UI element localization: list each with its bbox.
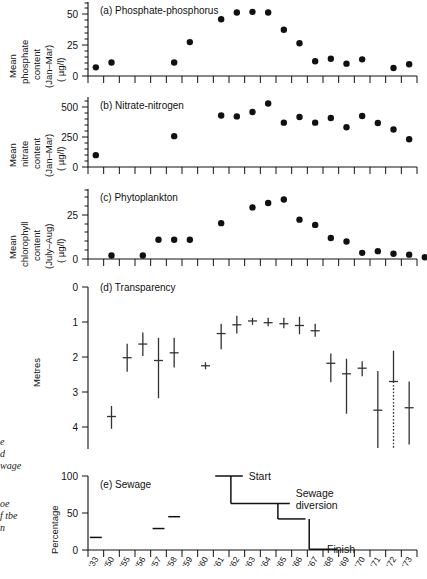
data-point bbox=[234, 113, 240, 119]
margin-note-4: f tbe bbox=[0, 510, 38, 523]
annotation-label: Sewage bbox=[296, 487, 334, 499]
panel-d-transparency: Metres (d) Transparency 0 1 2 3 4 bbox=[0, 277, 427, 457]
data-point bbox=[108, 59, 114, 65]
panel-b-ylabel-line-3: (Jan–Mar) bbox=[43, 134, 54, 177]
panel-e-sewage: Percentage (e) Sewage 0 50 100 StartSewa… bbox=[0, 466, 427, 576]
panel-d-errorbars bbox=[107, 316, 414, 448]
panel-c-ylabel-group: Mean chlorophyll content (July–Aug) ( µg… bbox=[7, 222, 66, 269]
panel-a-title: (a) Phosphate-phosphorus bbox=[100, 5, 218, 16]
data-point bbox=[328, 115, 334, 121]
panel-c-xticks bbox=[88, 259, 417, 266]
panel-a-ytick-0: 0 bbox=[72, 71, 78, 82]
panel-c-title: (c) Phytoplankton bbox=[100, 192, 178, 203]
errorbar bbox=[138, 333, 147, 356]
data-point bbox=[390, 126, 396, 132]
panel-a-phosphate: Mean phosphate content (Jan–Mar) ( µg/l)… bbox=[0, 0, 427, 95]
panel-a-xticks bbox=[88, 76, 417, 83]
errorbar bbox=[248, 318, 257, 325]
margin-note-2: wage bbox=[0, 460, 38, 473]
data-point bbox=[93, 64, 99, 70]
panel-c-yticks bbox=[82, 190, 88, 259]
data-point bbox=[281, 119, 287, 125]
data-point bbox=[218, 16, 224, 22]
margin-note-0: e bbox=[0, 436, 38, 449]
data-point bbox=[406, 136, 412, 142]
margin-note-3: oe bbox=[0, 498, 38, 511]
data-point bbox=[390, 251, 396, 257]
panel-a-ylabel-line-2: content bbox=[31, 48, 42, 80]
panel-c-ylabel-line-4: ( µg/l) bbox=[55, 239, 66, 263]
annotation-label: Start bbox=[249, 470, 271, 482]
errorbar bbox=[373, 371, 382, 448]
errorbar bbox=[405, 382, 414, 445]
panel-c-ylabel-line-0: Mean bbox=[7, 235, 18, 259]
data-point bbox=[390, 65, 396, 71]
data-point bbox=[187, 39, 193, 45]
panel-d-ytick-2: 2 bbox=[72, 352, 78, 363]
panel-b-ytick-0: 0 bbox=[72, 162, 78, 173]
panel-d-title: (d) Transparency bbox=[100, 282, 176, 293]
errorbar bbox=[232, 316, 241, 334]
data-point bbox=[312, 119, 318, 125]
data-point bbox=[375, 248, 381, 254]
data-point bbox=[296, 40, 302, 46]
errorbar bbox=[201, 362, 210, 369]
errorbar bbox=[358, 361, 367, 376]
panel-b-yticks bbox=[82, 101, 88, 167]
data-point bbox=[343, 60, 349, 66]
margin-note-1: d bbox=[0, 448, 38, 461]
errorbar bbox=[170, 338, 179, 368]
data-point bbox=[265, 200, 271, 206]
panel-b-ylabel-line-0: Mean bbox=[7, 143, 18, 167]
panel-d-ylabel: Metres bbox=[31, 358, 42, 387]
panel-a-ylabel-line-1: phosphate bbox=[19, 40, 30, 84]
errorbar bbox=[154, 338, 163, 399]
data-point bbox=[218, 112, 224, 118]
panel-a-yticks bbox=[82, 3, 88, 76]
panel-a-ylabel-line-4: ( µg/l) bbox=[55, 58, 66, 82]
panel-a-ylabel-group: Mean phosphate content (Jan–Mar) ( µg/l) bbox=[7, 40, 66, 88]
data-point bbox=[359, 56, 365, 62]
panel-e-title: (e) Sewage bbox=[100, 479, 152, 490]
data-point bbox=[249, 9, 255, 15]
errorbar bbox=[295, 317, 304, 335]
data-point bbox=[406, 61, 412, 67]
panel-d-ytick-1: 1 bbox=[72, 317, 78, 328]
data-point bbox=[312, 222, 318, 228]
panel-e-yticks bbox=[82, 476, 88, 550]
errorbar bbox=[342, 359, 351, 414]
panel-b-ylabel-line-2: content bbox=[31, 137, 42, 169]
panel-c-ylabel-line-2: content bbox=[31, 229, 42, 261]
errorbar bbox=[279, 318, 288, 329]
data-point bbox=[234, 9, 240, 15]
errorbar bbox=[107, 406, 116, 429]
data-point bbox=[249, 109, 255, 115]
panel-a-ylabel-line-0: Mean bbox=[7, 54, 18, 78]
data-point bbox=[265, 100, 271, 106]
panel-e-ytick-1: 50 bbox=[67, 508, 79, 519]
data-point bbox=[155, 237, 161, 243]
panel-a-ylabel-line-3: (Jan–Mar) bbox=[43, 45, 54, 88]
data-point bbox=[171, 133, 177, 139]
errorbar bbox=[326, 354, 335, 383]
errorbar bbox=[217, 324, 226, 350]
data-point bbox=[281, 27, 287, 33]
panel-b-title: (b) Nitrate-nitrogen bbox=[100, 100, 184, 111]
data-point bbox=[140, 252, 146, 258]
annotation-label: Finish bbox=[327, 543, 355, 555]
data-point bbox=[328, 56, 334, 62]
data-point bbox=[218, 220, 224, 226]
data-point bbox=[249, 204, 255, 210]
panel-c-ytick-1: 25 bbox=[67, 210, 79, 221]
data-point bbox=[171, 237, 177, 243]
data-point bbox=[343, 238, 349, 244]
data-point bbox=[296, 114, 302, 120]
data-point bbox=[312, 58, 318, 64]
panel-d-ytick-0: 0 bbox=[72, 282, 78, 293]
data-point bbox=[328, 235, 334, 241]
panel-b-ylabel-line-4: ( µg/l) bbox=[55, 147, 66, 171]
panel-a-ytick-1: 25 bbox=[67, 40, 79, 51]
data-point bbox=[187, 237, 193, 243]
data-point bbox=[281, 196, 287, 202]
panel-e-ytick-0: 0 bbox=[72, 545, 78, 556]
